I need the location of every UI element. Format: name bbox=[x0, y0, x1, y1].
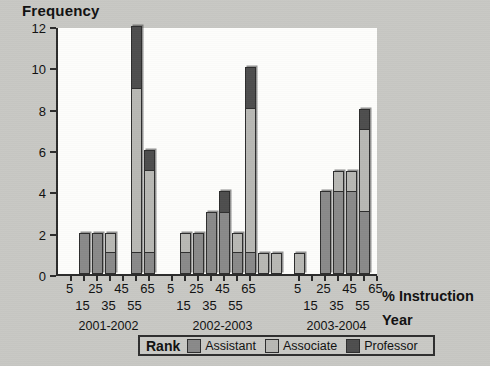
legend-label: Professor bbox=[364, 339, 418, 353]
bar-segment-assistant bbox=[80, 234, 89, 273]
bar-segment-professor bbox=[145, 151, 154, 171]
bar-segment-assistant bbox=[106, 253, 115, 273]
x-tick-label: 25 bbox=[316, 281, 330, 296]
bar bbox=[180, 233, 191, 274]
x-tick-label: 65 bbox=[368, 281, 382, 296]
x-tick-label: 35 bbox=[202, 298, 216, 313]
bar-segment-professor bbox=[360, 110, 369, 130]
x-tick-mark bbox=[109, 276, 111, 281]
x-tick-label: 5 bbox=[167, 281, 174, 296]
y-tick-mark bbox=[50, 234, 56, 236]
legend: Rank AssistantAssociateProfessor bbox=[138, 335, 435, 356]
chart-container: Frequency 024681012 51525354555655152535… bbox=[0, 0, 490, 366]
bar-segment-associate bbox=[295, 254, 304, 273]
bar bbox=[258, 253, 269, 274]
x-group-label: 2003-2004 bbox=[307, 319, 367, 333]
bar-segment-associate bbox=[347, 172, 356, 192]
bar-segment-assistant bbox=[145, 253, 154, 273]
bar-segment-assistant bbox=[194, 234, 203, 273]
legend-label: Assistant bbox=[205, 339, 256, 353]
bars-layer bbox=[58, 28, 377, 274]
legend-swatch-icon bbox=[346, 339, 360, 353]
bar bbox=[79, 233, 90, 274]
legend-item: Assistant bbox=[187, 339, 256, 353]
y-tick-mark bbox=[50, 275, 56, 277]
x-tick-label: 45 bbox=[215, 281, 229, 296]
bar bbox=[193, 233, 204, 274]
bar-segment-professor bbox=[246, 68, 255, 109]
bar-segment-assistant bbox=[220, 213, 229, 273]
x-tick-label: 65 bbox=[241, 281, 255, 296]
x-tick-label: 35 bbox=[101, 298, 115, 313]
bar bbox=[333, 171, 344, 274]
bar bbox=[232, 233, 243, 274]
y-tick-mark bbox=[50, 151, 56, 153]
legend-label: Associate bbox=[283, 339, 337, 353]
bar bbox=[144, 150, 155, 274]
bar-segment-associate bbox=[106, 234, 115, 254]
bar-segment-assistant bbox=[93, 234, 102, 273]
y-tick-label: 8 bbox=[16, 103, 46, 118]
y-tick-label: 10 bbox=[16, 62, 46, 77]
x-tick-label: 55 bbox=[127, 298, 141, 313]
legend-item: Professor bbox=[346, 339, 418, 353]
bar bbox=[105, 233, 116, 274]
y-tick-label: 2 bbox=[16, 227, 46, 242]
y-tick-label: 12 bbox=[16, 21, 46, 36]
x-tick-label: 45 bbox=[114, 281, 128, 296]
x-tick-label: 65 bbox=[140, 281, 154, 296]
y-tick-mark bbox=[50, 27, 56, 29]
x-tick-label: 5 bbox=[66, 281, 73, 296]
bar-segment-assistant bbox=[334, 192, 343, 273]
bar-segment-associate bbox=[233, 234, 242, 254]
bar-segment-assistant bbox=[181, 253, 190, 273]
x-tick-mark bbox=[184, 276, 186, 281]
bar bbox=[320, 191, 331, 274]
y-tick-mark bbox=[50, 68, 56, 70]
bar bbox=[294, 253, 305, 274]
bar bbox=[359, 109, 370, 274]
bar-segment-associate bbox=[272, 254, 281, 273]
bar-segment-associate bbox=[145, 171, 154, 252]
plot-area bbox=[56, 28, 377, 276]
legend-title: Rank bbox=[146, 338, 180, 354]
bar-segment-assistant bbox=[132, 253, 141, 274]
bar bbox=[271, 253, 282, 274]
x-tick-label: 55 bbox=[355, 298, 369, 313]
legend-swatch-icon bbox=[265, 339, 279, 353]
y-tick-label: 6 bbox=[16, 145, 46, 160]
bar-segment-professor bbox=[132, 27, 141, 89]
x-group-label: 2001-2002 bbox=[79, 319, 139, 333]
bar-segment-assistant bbox=[360, 212, 369, 273]
bar-segment-assistant bbox=[321, 192, 330, 273]
x-group-label: 2002-2003 bbox=[193, 319, 253, 333]
x-tick-label: 5 bbox=[294, 281, 301, 296]
bar-segment-assistant bbox=[246, 253, 255, 273]
x-axis-title-year: Year bbox=[382, 312, 413, 328]
bar-segment-associate bbox=[181, 234, 190, 254]
bar-segment-assistant bbox=[347, 192, 356, 273]
legend-swatch-icon bbox=[187, 339, 201, 353]
bar-segment-associate bbox=[132, 89, 141, 253]
bar bbox=[92, 233, 103, 274]
bar-segment-associate bbox=[334, 172, 343, 192]
bar bbox=[346, 171, 357, 274]
y-axis-title: Frequency bbox=[22, 2, 100, 19]
x-tick-mark bbox=[83, 276, 85, 281]
x-axis-title: % Instruction bbox=[382, 288, 474, 304]
bar-segment-associate bbox=[360, 130, 369, 212]
bar bbox=[131, 26, 142, 274]
y-tick-label: 0 bbox=[16, 269, 46, 284]
bar-segment-assistant bbox=[233, 253, 242, 273]
x-tick-mark bbox=[311, 276, 313, 281]
bar bbox=[219, 191, 230, 274]
bar-segment-assistant bbox=[207, 213, 216, 273]
x-tick-mark bbox=[363, 276, 365, 281]
y-tick-mark bbox=[50, 192, 56, 194]
x-tick-label: 45 bbox=[342, 281, 356, 296]
bar bbox=[206, 212, 217, 274]
y-tick-label: 4 bbox=[16, 186, 46, 201]
x-tick-label: 15 bbox=[176, 298, 190, 313]
legend-items: AssistantAssociateProfessor bbox=[187, 339, 426, 353]
bar bbox=[245, 67, 256, 274]
